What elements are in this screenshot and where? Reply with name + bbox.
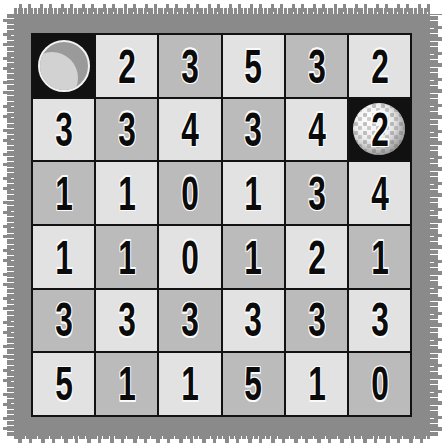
- grid-cell-r5-c2[interactable]: 3: [96, 290, 157, 352]
- cell-value: 2: [371, 105, 388, 153]
- grid-cell-r3-c4[interactable]: 1: [223, 162, 284, 224]
- cell-value: 3: [308, 169, 325, 217]
- cell-value: 1: [55, 233, 72, 281]
- grid-cell-r6-c2[interactable]: 1: [96, 353, 157, 415]
- frame-edge-bottom-teeth: [14, 435, 430, 443]
- frame-edge-right-teeth: [434, 14, 442, 436]
- cell-value: 3: [308, 296, 325, 344]
- cell-value: 1: [55, 169, 72, 217]
- cell-value: 1: [118, 169, 135, 217]
- cell-value: 3: [118, 296, 135, 344]
- grid-cell-r2-c2[interactable]: 3: [96, 99, 157, 161]
- grid-cell-r1-c1[interactable]: [33, 35, 94, 97]
- cell-value: 4: [308, 105, 325, 153]
- cell-value: 1: [118, 360, 135, 408]
- cell-value: 0: [181, 233, 198, 281]
- cell-value: 3: [55, 296, 72, 344]
- puzzle-screenshot: 23532334342110134110121333333511510: [0, 0, 443, 448]
- grid-cell-r4-c3[interactable]: 0: [159, 226, 220, 288]
- grid-cell-r2-c1[interactable]: 3: [33, 99, 94, 161]
- cell-value: 5: [55, 360, 72, 408]
- moon-icon: [38, 40, 90, 92]
- grid-cell-r3-c3[interactable]: 0: [159, 162, 220, 224]
- cell-value: 3: [245, 105, 262, 153]
- grid-cell-r6-c4[interactable]: 5: [223, 353, 284, 415]
- cell-value: 1: [118, 233, 135, 281]
- grid-cell-r3-c6[interactable]: 4: [349, 162, 410, 224]
- grid-cell-r2-c4[interactable]: 3: [223, 99, 284, 161]
- grid-cell-r5-c1[interactable]: 3: [33, 290, 94, 352]
- grid-cell-r5-c6[interactable]: 3: [349, 290, 410, 352]
- grid-cell-r1-c4[interactable]: 5: [223, 35, 284, 97]
- grid-cell-r6-c5[interactable]: 1: [286, 353, 347, 415]
- grid-cell-r6-c3[interactable]: 1: [159, 353, 220, 415]
- cell-value: 2: [118, 42, 135, 90]
- grid-cell-r1-c6[interactable]: 2: [349, 35, 410, 97]
- grid-cell-r1-c3[interactable]: 3: [159, 35, 220, 97]
- grid-cell-r3-c5[interactable]: 3: [286, 162, 347, 224]
- grid-cell-r5-c3[interactable]: 3: [159, 290, 220, 352]
- cell-value: 5: [245, 42, 262, 90]
- grid-cell-r2-c6[interactable]: 2: [349, 99, 410, 161]
- number-grid[interactable]: 23532334342110134110121333333511510: [33, 35, 410, 415]
- cell-value: 3: [181, 296, 198, 344]
- grid-cell-r1-c2[interactable]: 2: [96, 35, 157, 97]
- grid-cell-r2-c3[interactable]: 4: [159, 99, 220, 161]
- cell-value: 3: [371, 296, 388, 344]
- grid-cell-r3-c2[interactable]: 1: [96, 162, 157, 224]
- cell-value: 3: [118, 105, 135, 153]
- cell-value: 1: [245, 233, 262, 281]
- grid-cell-r3-c1[interactable]: 1: [33, 162, 94, 224]
- cell-value: 1: [181, 360, 198, 408]
- grid-cell-r4-c2[interactable]: 1: [96, 226, 157, 288]
- cell-value: 3: [308, 42, 325, 90]
- cell-value: 3: [245, 296, 262, 344]
- frame-edge-top-teeth: [14, 4, 430, 12]
- grid-cell-r1-c5[interactable]: 3: [286, 35, 347, 97]
- cell-value: 0: [181, 169, 198, 217]
- cell-value: 2: [308, 233, 325, 281]
- grid-cell-r6-c6[interactable]: 0: [349, 353, 410, 415]
- grid-cell-r4-c6[interactable]: 1: [349, 226, 410, 288]
- cell-value: 0: [371, 360, 388, 408]
- cell-value: 4: [181, 105, 198, 153]
- grid-cell-r4-c5[interactable]: 2: [286, 226, 347, 288]
- cell-value: 1: [371, 233, 388, 281]
- grid-cell-r5-c5[interactable]: 3: [286, 290, 347, 352]
- cell-value: 1: [245, 169, 262, 217]
- grid-cell-r5-c4[interactable]: 3: [223, 290, 284, 352]
- grid-cell-r4-c1[interactable]: 1: [33, 226, 94, 288]
- board-border: 23532334342110134110121333333511510: [31, 33, 412, 417]
- cell-value: 1: [308, 360, 325, 408]
- cell-value: 2: [371, 42, 388, 90]
- cell-value: 3: [181, 42, 198, 90]
- cell-value: 5: [245, 360, 262, 408]
- grid-cell-r4-c4[interactable]: 1: [223, 226, 284, 288]
- grid-cell-r2-c5[interactable]: 4: [286, 99, 347, 161]
- grid-cell-r6-c1[interactable]: 5: [33, 353, 94, 415]
- frame-edge-left-teeth: [3, 14, 11, 436]
- cell-value: 4: [371, 169, 388, 217]
- cell-value: 3: [55, 105, 72, 153]
